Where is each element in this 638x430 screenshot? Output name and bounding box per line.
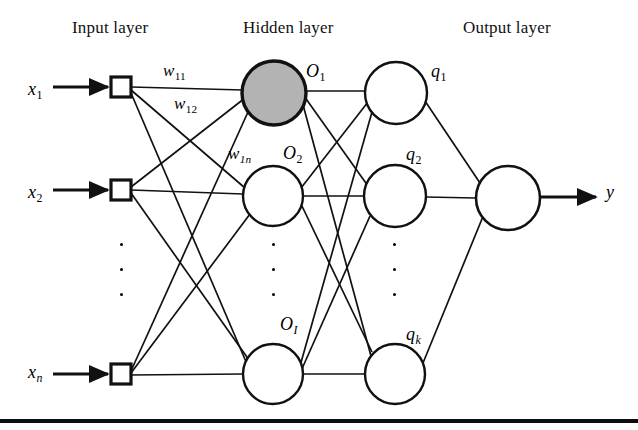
- hidden-label-O1-base: O: [306, 61, 319, 81]
- hidden-label-OI-base: O: [280, 314, 293, 334]
- hidden-label-O1: O1: [306, 62, 325, 80]
- hidden-label-q1-base: q: [431, 61, 440, 81]
- edge-in1-O1: [131, 87, 243, 90]
- edge-O2-q1: [301, 102, 368, 188]
- hidden-node-q2[interactable]: [364, 165, 426, 227]
- edge-q1-out: [425, 101, 482, 186]
- hidden-label-qk: qk: [406, 325, 421, 343]
- weight-label-w11: w11: [163, 62, 186, 79]
- hidden-label-OI-sub: I: [293, 323, 297, 337]
- input-layer-ellipsis: [120, 243, 124, 296]
- weight-w12-base: w: [174, 94, 185, 113]
- hidden-node-O2[interactable]: [243, 166, 303, 226]
- input-to-hidden1-edges: [131, 87, 250, 375]
- output-node[interactable]: [476, 166, 540, 230]
- input-nodes: [111, 77, 131, 384]
- weight-w1n-sub: 1n: [239, 153, 251, 165]
- input-label-x1: x1: [28, 80, 42, 98]
- hidden-label-O2: O2: [283, 144, 302, 162]
- layer-title-output: Output layer: [463, 18, 551, 38]
- edge-in2-O2: [131, 190, 243, 194]
- input-label-x1-base: x: [28, 79, 36, 99]
- hidden-label-q2-base: q: [406, 144, 415, 164]
- layer-title-input: Input layer: [72, 18, 148, 38]
- weight-w12-sub: 12: [185, 103, 197, 115]
- weight-label-w12: w12: [174, 95, 197, 112]
- edge-in2-OI: [131, 193, 249, 360]
- layer-title-hidden: Hidden layer: [243, 18, 334, 38]
- input-label-x2-sub: 2: [36, 191, 42, 205]
- output-label-y: y: [606, 183, 614, 201]
- hidden1-to-hidden2-edges: [300, 91, 372, 374]
- hidden-label-O2-base: O: [283, 143, 296, 163]
- hidden2-to-output-edges: [423, 101, 484, 363]
- hidden-label-q2-sub: 2: [415, 153, 421, 167]
- input-label-xn-base: x: [28, 362, 36, 382]
- edge-in1-OI: [131, 93, 247, 364]
- hidden-label-O1-sub: 1: [319, 70, 325, 84]
- hidden-label-q1-sub: 1: [440, 70, 446, 84]
- input-signal-arrows: [53, 87, 108, 374]
- weight-w1n-base: w: [228, 144, 239, 163]
- hidden-node-O1[interactable]: [242, 61, 306, 125]
- bottom-divider: [0, 419, 638, 423]
- hidden-label-OI: OI: [280, 315, 297, 333]
- hidden-label-q2: q2: [406, 145, 421, 163]
- edge-in3-OI: [131, 374, 243, 375]
- input-label-x1-sub: 1: [36, 88, 42, 102]
- input-node-x2[interactable]: [111, 180, 131, 200]
- hidden-layer-2-nodes: [364, 62, 427, 404]
- input-label-xn: xn: [28, 363, 42, 381]
- weight-w11-sub: 11: [174, 70, 185, 82]
- hidden-node-qk[interactable]: [365, 344, 425, 404]
- input-label-x2: x2: [28, 183, 42, 201]
- hidden-layer-2-ellipsis: [393, 243, 397, 296]
- weight-w11-base: w: [163, 61, 174, 80]
- hidden-label-qk-sub: k: [415, 333, 421, 347]
- hidden-label-qk-base: q: [406, 324, 415, 344]
- hidden-label-O2-sub: 2: [296, 152, 302, 166]
- neural-network-figure: Input layer Hidden layer Output layer x1…: [0, 0, 638, 430]
- weight-label-w1n: w1n: [228, 145, 251, 162]
- input-node-x1[interactable]: [111, 77, 131, 97]
- hidden-node-OI[interactable]: [243, 344, 303, 404]
- edge-q2-out: [426, 197, 476, 198]
- hidden-layer-1-nodes: [242, 61, 306, 404]
- hidden-layer-1-ellipsis: [272, 243, 276, 296]
- input-label-x2-base: x: [28, 182, 36, 202]
- input-node-xn[interactable]: [111, 364, 131, 384]
- input-label-xn-sub: n: [36, 371, 42, 385]
- hidden-label-q1: q1: [431, 62, 446, 80]
- hidden-node-q1[interactable]: [365, 62, 427, 124]
- edge-qk-out: [423, 214, 484, 363]
